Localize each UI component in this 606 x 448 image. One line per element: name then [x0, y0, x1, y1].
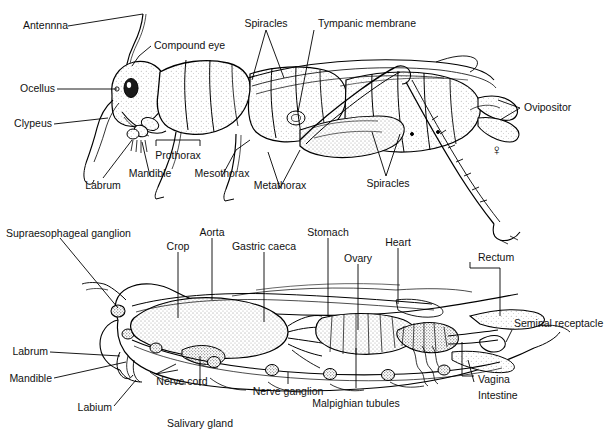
- grasshopper-anatomy-figure: Antennna Compound eye Ocellus Clypeus La…: [0, 0, 606, 448]
- label-nerve-ganglion: Nerve ganglion: [253, 386, 324, 397]
- label-vagina: Vagina: [478, 374, 510, 385]
- label-supraesophageal-ganglion: Supraesophageal ganglion: [6, 228, 131, 239]
- label-labrum-internal: Labrum: [12, 346, 48, 357]
- label-heart: Heart: [385, 237, 411, 248]
- label-intestine: Intestine: [478, 390, 518, 401]
- label-nerve-cord: Nerve cord: [156, 376, 207, 387]
- label-labium: Labium: [78, 402, 112, 413]
- label-aorta: Aorta: [199, 227, 224, 238]
- bottom-panel-leader-lines: [0, 0, 606, 448]
- label-stomach: Stomach: [307, 227, 348, 238]
- label-ovary: Ovary: [344, 253, 372, 264]
- label-mandible-internal: Mandible: [9, 373, 52, 384]
- label-salivary-gland: Salivary gland: [167, 418, 233, 429]
- label-crop: Crop: [167, 241, 190, 252]
- label-malpighian-tubules: Malpighian tubules: [312, 398, 400, 409]
- label-gastric-caeca: Gastric caeca: [232, 241, 296, 252]
- label-rectum: Rectum: [478, 252, 514, 263]
- label-seminal-receptacle: Seminal receptacle: [514, 318, 603, 329]
